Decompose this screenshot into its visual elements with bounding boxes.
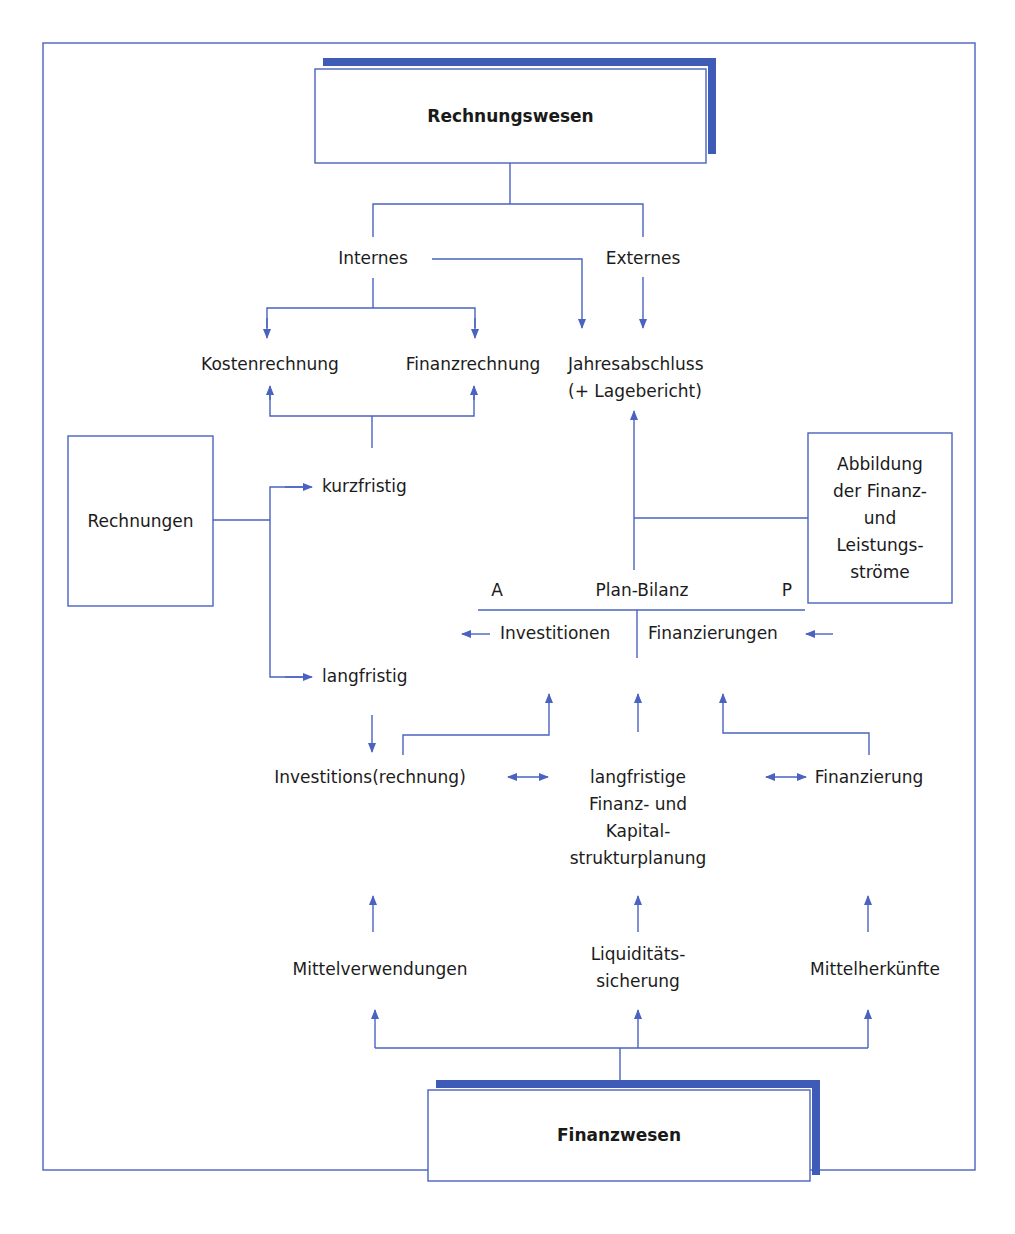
rechnungen-box: Rechnungen <box>68 436 213 606</box>
label-kostenrechnung: Kostenrechnung <box>201 351 339 378</box>
top-box-rechnungswesen: Rechnungswesen <box>315 69 706 163</box>
abbildung-line: Leistungs- <box>836 532 923 559</box>
abbildung-line: und <box>864 505 896 532</box>
label-finanzrechnung: Finanzrechnung <box>406 351 540 378</box>
bottom-box-label: Finanzwesen <box>557 1122 681 1149</box>
label-sicherung: sicherung <box>596 968 680 995</box>
top-box-label: Rechnungswesen <box>427 103 593 130</box>
abbildung-line: der Finanz- <box>833 478 927 505</box>
label-lagebericht: (+ Lagebericht) <box>568 378 702 405</box>
abbildung-line: Abbildung <box>837 451 923 478</box>
label-investitionen: Investitionen <box>500 620 610 647</box>
label-jahresabschluss: Jahresabschluss <box>568 351 704 378</box>
label-internes: Internes <box>338 245 408 272</box>
rechnungen-label: Rechnungen <box>88 508 194 535</box>
label-finanzierung: Finanzierung <box>815 764 924 791</box>
bottom-box-finanzwesen: Finanzwesen <box>428 1090 810 1181</box>
label-aktiva-marker: A <box>491 577 503 604</box>
abbildung-box: Abbildung der Finanz- und Leistungs- str… <box>808 433 952 603</box>
label-plan-bilanz: Plan-Bilanz <box>596 577 689 604</box>
label-langfristige: langfristige <box>590 764 686 791</box>
label-finanzierungen: Finanzierungen <box>648 620 778 647</box>
label-mittelverwendungen: Mittelverwendungen <box>293 956 468 983</box>
label-externes: Externes <box>606 245 681 272</box>
label-strukturplanung: strukturplanung <box>570 845 707 872</box>
label-investitionsrechnung: Investitions(rechnung) <box>274 764 466 791</box>
label-mittelherkuenfte: Mittelherkünfte <box>810 956 940 983</box>
label-kurzfristig: kurzfristig <box>322 473 407 500</box>
label-langfristig: langfristig <box>322 663 407 690</box>
abbildung-line: ströme <box>850 559 910 586</box>
label-kapital: Kapital- <box>606 818 671 845</box>
label-liquiditaets: Liquiditäts- <box>591 941 686 968</box>
label-passiva-marker: P <box>782 577 792 604</box>
diagram-lines <box>0 0 1015 1234</box>
label-finanz-und: Finanz- und <box>589 791 687 818</box>
